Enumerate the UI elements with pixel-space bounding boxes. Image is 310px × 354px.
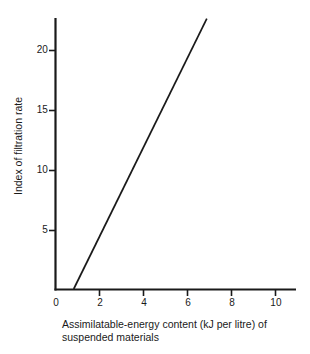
x-tick-label-6: 6 <box>173 298 203 308</box>
x-tick-label-4: 4 <box>129 298 159 308</box>
x-axis-title-line-1: Assimilatable-energy content (kJ per lit… <box>62 318 302 331</box>
y-tick-label-5: 5 <box>22 225 48 235</box>
x-tick-label-group: 0 2 4 6 8 10 <box>0 298 310 312</box>
y-tick-label-20: 20 <box>22 45 48 55</box>
y-tick-label-15: 15 <box>22 105 48 115</box>
y-tick-label-10: 10 <box>22 165 48 175</box>
plot-area: 20 15 10 5 0 2 4 6 8 10 Index of filtrat… <box>0 0 310 310</box>
x-axis-title: Assimilatable-energy content (kJ per lit… <box>62 318 302 344</box>
y-axis-title: Index of filtration rate <box>12 61 24 231</box>
x-axis-title-line-2: suspended materials <box>62 331 302 344</box>
x-tick-label-8: 8 <box>217 298 247 308</box>
x-axis-ticks <box>100 290 276 296</box>
chart-figure: 20 15 10 5 0 2 4 6 8 10 Index of filtrat… <box>0 0 310 354</box>
y-axis-ticks <box>49 51 55 231</box>
x-tick-label-2: 2 <box>85 298 115 308</box>
data-line-filtration-rate <box>74 19 207 289</box>
x-tick-label-0: 0 <box>41 298 71 308</box>
x-tick-label-10: 10 <box>261 298 291 308</box>
